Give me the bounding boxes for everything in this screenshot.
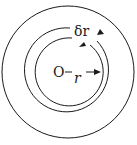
radius-arrowhead-icon: [94, 69, 101, 75]
outer-arrowhead-icon: [97, 29, 104, 35]
concentric-shells-diagram: δr O r: [0, 0, 137, 145]
inner-arrowhead-icon: [79, 42, 86, 47]
shell-thickness-label: δr: [74, 23, 89, 39]
center-label: O: [53, 64, 64, 80]
